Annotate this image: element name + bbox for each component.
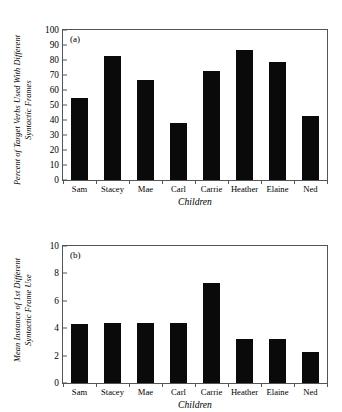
bar-cell [228,246,261,383]
y-tick-label: 20 [50,145,63,155]
y-tick-label: 60 [50,85,63,95]
x-tick-mark [96,180,97,184]
x-tick-mark [327,180,328,184]
y-tick-mark [63,105,67,106]
panel-a: Percent of Target Verbs Used With Differ… [0,0,342,212]
y-tick-label: 40 [50,115,63,125]
y-tick-label: 0 [54,175,63,185]
x-tick-label: Elaine [261,184,294,194]
x-tick-label: Sam [63,387,96,397]
bar [137,80,155,181]
y-tick-mark [63,135,67,136]
panel-b: Mean Instance of 1st Different Syntactic… [0,212,342,412]
bar-cell [129,30,162,180]
x-tick-mark [129,180,130,184]
figure-two-panel-bar-chart: Percent of Target Verbs Used With Differ… [0,0,342,412]
bar [104,323,122,383]
x-tick-label: Heather [228,387,261,397]
x-tick-label: Carrie [195,184,228,194]
y-tick-mark [63,45,67,46]
x-tick-mark [63,180,64,184]
x-tick-mark [162,180,163,184]
y-tick-mark [63,165,67,166]
x-tick-mark [228,180,229,184]
y-tick-label: 6 [54,296,63,306]
x-tick-label: Mae [129,387,162,397]
y-tick-label: 100 [45,25,63,35]
y-tick-label: 90 [50,40,63,50]
x-tick-mark [294,383,295,387]
x-tick-mark [327,383,328,387]
x-tick-mark [261,383,262,387]
y-tick-mark [63,120,67,121]
x-tick-label: Stacey [96,387,129,397]
y-tick-mark [63,180,67,181]
x-tick-mark [96,383,97,387]
panel-b-x-axis-title: Children [63,399,327,410]
panel-b-bar-group [63,246,327,383]
y-tick-mark [63,328,67,329]
bar-cell [129,246,162,383]
y-tick-mark [63,300,67,301]
y-tick-label: 0 [54,378,63,388]
x-tick-label: Carrie [195,387,228,397]
x-tick-mark [261,180,262,184]
bar [203,283,221,383]
panel-a-x-tick-labels: SamStaceyMaeCarlCarrieHeatherElaineNed [63,184,327,194]
x-tick-label: Sam [63,184,96,194]
bar-cell [261,246,294,383]
panel-a-bar-group [63,30,327,180]
y-tick-label: 10 [50,241,63,251]
x-tick-mark [162,383,163,387]
bar-cell [195,30,228,180]
bar [104,56,122,181]
y-tick-label: 2 [54,351,63,361]
bar-cell [96,30,129,180]
bar [269,62,287,181]
panel-b-x-tick-labels: SamStaceyMaeCarlCarrieHeatherElaineNed [63,387,327,397]
panel-a-x-axis-title: Children [63,196,327,207]
bar-cell [294,30,327,180]
y-tick-label: 50 [50,100,63,110]
bar-cell [63,30,96,180]
bar [302,352,320,384]
bar-cell [162,30,195,180]
bar [302,116,320,181]
x-tick-label: Carl [162,184,195,194]
bar [236,50,254,181]
y-tick-mark [63,30,67,31]
x-tick-label: Ned [294,387,327,397]
y-tick-mark [63,383,67,384]
y-tick-label: 70 [50,70,63,80]
panel-a-plot-area: (a) SamStaceyMaeCarlCarrieHeatherElaineN… [62,29,328,181]
x-tick-mark [228,383,229,387]
x-tick-mark [63,383,64,387]
bar-cell [228,30,261,180]
y-tick-label: 8 [54,268,63,278]
panel-b-plot-area: (b) SamStaceyMaeCarlCarrieHeatherElaineN… [62,245,328,384]
y-tick-mark [63,355,67,356]
y-tick-mark [63,90,67,91]
y-tick-mark [63,273,67,274]
bar [71,324,89,383]
bar-cell [261,30,294,180]
y-tick-mark [63,75,67,76]
bar-cell [96,246,129,383]
x-tick-label: Heather [228,184,261,194]
bar-cell [162,246,195,383]
bar-cell [195,246,228,383]
x-tick-label: Carl [162,387,195,397]
x-tick-label: Mae [129,184,162,194]
bar [170,123,188,180]
bar [71,98,89,181]
bar [137,323,155,383]
y-tick-label: 80 [50,55,63,65]
x-tick-label: Elaine [261,387,294,397]
y-tick-mark [63,150,67,151]
x-tick-mark [195,383,196,387]
y-tick-label: 10 [50,160,63,170]
x-tick-mark [294,180,295,184]
bar [236,339,254,383]
bar [203,71,221,181]
y-tick-label: 30 [50,130,63,140]
